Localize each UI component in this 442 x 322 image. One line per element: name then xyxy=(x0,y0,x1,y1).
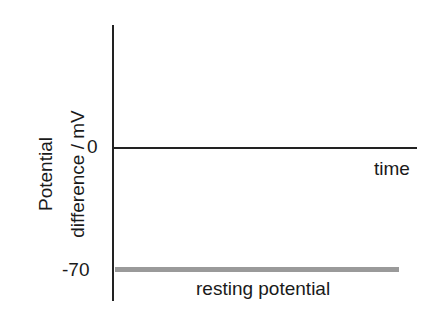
tick-label-zero: 0 xyxy=(87,137,98,156)
y-axis-label-line2: difference / mV xyxy=(62,74,94,274)
tick-label-minus-70: -70 xyxy=(62,260,89,279)
x-axis-zero-line xyxy=(113,147,417,149)
resting-potential-line xyxy=(115,267,399,272)
y-axis-label-line1: Potential xyxy=(30,74,62,274)
resting-potential-label: resting potential xyxy=(196,278,330,300)
x-axis-label: time xyxy=(374,158,410,180)
y-axis xyxy=(112,25,114,301)
y-axis-label: Potential difference / mV xyxy=(30,74,94,274)
